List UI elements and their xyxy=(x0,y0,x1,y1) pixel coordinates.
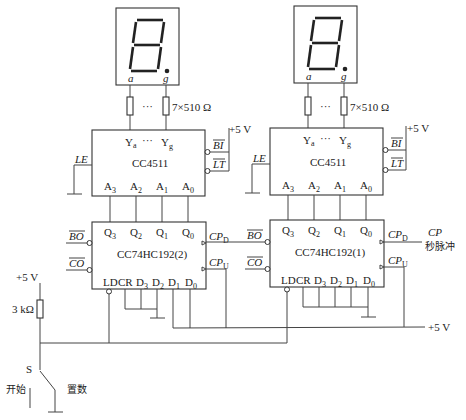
svg-text:Y: Y xyxy=(339,134,347,146)
svg-text:D: D xyxy=(168,276,176,288)
svg-text:Q: Q xyxy=(130,226,138,238)
svg-text:Q: Q xyxy=(282,224,290,236)
resistor-array-left: ··· 7×510 Ω xyxy=(127,85,211,130)
svg-text:D: D xyxy=(223,236,229,245)
svg-text:CR: CR xyxy=(296,274,311,286)
svg-text:A: A xyxy=(334,179,342,191)
decoder-name: CC4511 xyxy=(132,157,168,169)
ellipsis-label: ··· xyxy=(142,100,153,112)
bcd-bus-left xyxy=(110,196,188,222)
svg-text:Y: Y xyxy=(125,136,133,148)
svg-text:0: 0 xyxy=(190,232,194,241)
seven-segment-display-left: a g xyxy=(116,8,179,85)
svg-text:g: g xyxy=(169,142,173,151)
svg-text:LD: LD xyxy=(281,274,296,286)
svg-text:1: 1 xyxy=(164,186,168,195)
segment-label-g: g xyxy=(163,72,169,84)
svg-text:CP: CP xyxy=(209,230,223,242)
svg-text:0: 0 xyxy=(193,282,197,291)
pullup-supply-label: +5 V xyxy=(16,271,38,283)
switch-start-label: 开始 xyxy=(6,383,26,395)
svg-text:3: 3 xyxy=(112,232,116,241)
resistor-value-label: 7×510 Ω xyxy=(172,101,211,113)
supply-rail xyxy=(173,327,425,328)
segment-label-a: a xyxy=(128,72,134,84)
svg-text:3: 3 xyxy=(144,282,148,291)
clock-desc: 秒脉冲 xyxy=(425,240,455,252)
svg-text:CO: CO xyxy=(69,257,84,269)
svg-text:Q: Q xyxy=(156,226,164,238)
svg-text:BO: BO xyxy=(69,230,84,242)
svg-text:3: 3 xyxy=(322,280,326,289)
svg-text:2: 2 xyxy=(160,282,164,291)
svg-text:A: A xyxy=(308,179,316,191)
svg-text:2: 2 xyxy=(316,185,320,194)
counter-cc74hc192-1: Q 3 Q 2 Q 1 Q 0 CC74HC192(1) LD CR D 3 D… xyxy=(245,220,408,292)
pin-lt-label: LT xyxy=(390,157,404,169)
segment-label-a: a xyxy=(306,70,312,82)
clock-label: CP xyxy=(428,226,442,238)
svg-text:A: A xyxy=(156,180,164,192)
resistor-value-label: 7×510 Ω xyxy=(350,101,389,113)
svg-text:A: A xyxy=(360,179,368,191)
svg-text:1: 1 xyxy=(354,280,358,289)
svg-text:···: ··· xyxy=(142,134,153,146)
svg-text:g: g xyxy=(347,140,351,149)
svg-text:Q: Q xyxy=(104,226,112,238)
supply-label: +5 V xyxy=(229,123,251,135)
svg-text:D: D xyxy=(330,274,338,286)
pullup-resistor-label: 3 kΩ xyxy=(12,303,34,315)
pin-bi-label: BI xyxy=(391,137,403,149)
counter-name: CC74HC192(2) xyxy=(117,248,188,261)
counter-name: CC74HC192(1) xyxy=(295,246,366,259)
pin-bi-label: BI xyxy=(213,139,225,151)
svg-text:a: a xyxy=(133,141,137,150)
svg-text:D: D xyxy=(363,274,371,286)
svg-text:D: D xyxy=(136,276,144,288)
switch-blade[interactable] xyxy=(40,371,55,390)
decoder-cc4511-right: Y a ··· Y g CC4511 A 3 A 2 A 1 A 0 LE BI… xyxy=(245,122,429,195)
ellipsis-label: ··· xyxy=(320,100,331,112)
segment-label-g: g xyxy=(341,70,347,82)
svg-text:a: a xyxy=(311,139,315,148)
resistor-array-right: ··· 7×510 Ω xyxy=(305,83,389,128)
svg-text:A: A xyxy=(104,180,112,192)
svg-text:Q: Q xyxy=(182,226,190,238)
svg-text:0: 0 xyxy=(368,230,372,239)
svg-text:Q: Q xyxy=(308,224,316,236)
pin-le-label: LE xyxy=(74,153,88,165)
svg-text:CP: CP xyxy=(388,228,402,240)
svg-text:CO: CO xyxy=(247,256,262,268)
svg-text:CR: CR xyxy=(118,276,133,288)
pin-le-label: LE xyxy=(252,152,266,164)
decoder-cc4511-left: Y a ··· Y g CC4511 A 3 A 2 A 1 A 0 LE BI… xyxy=(67,123,251,196)
svg-text:1: 1 xyxy=(342,230,346,239)
svg-text:3: 3 xyxy=(290,185,294,194)
svg-text:2: 2 xyxy=(338,280,342,289)
pin-lt-label: LT xyxy=(212,158,226,170)
svg-text:Q: Q xyxy=(334,224,342,236)
svg-text:1: 1 xyxy=(342,185,346,194)
supply-right-label: +5 V xyxy=(428,321,450,333)
svg-text:U: U xyxy=(402,260,408,269)
svg-text:D: D xyxy=(314,274,322,286)
svg-text:D: D xyxy=(346,274,354,286)
seven-segment-display-right: a g xyxy=(294,6,357,83)
bcd-bus-right xyxy=(288,195,366,220)
svg-text:Y: Y xyxy=(161,136,169,148)
switch-label: S xyxy=(26,363,32,375)
supply-label: +5 V xyxy=(407,122,429,134)
svg-text:Q: Q xyxy=(360,224,368,236)
switch-preset-label: 置数 xyxy=(67,383,87,395)
svg-text:A: A xyxy=(182,180,190,192)
svg-text:A: A xyxy=(130,180,138,192)
counter-cc74hc192-2: Q 3 Q 2 Q 1 Q 0 CC74HC192(2) LD CR D 3 D… xyxy=(66,222,229,294)
svg-text:0: 0 xyxy=(371,280,375,289)
svg-text:3: 3 xyxy=(112,186,116,195)
svg-text:D: D xyxy=(185,276,193,288)
svg-text:0: 0 xyxy=(368,185,372,194)
svg-text:CP: CP xyxy=(388,254,402,266)
svg-text:1: 1 xyxy=(176,282,180,291)
svg-text:2: 2 xyxy=(316,230,320,239)
svg-text:LD: LD xyxy=(103,276,118,288)
